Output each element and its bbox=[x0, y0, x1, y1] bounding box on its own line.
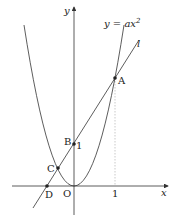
curve-label: y = ax2 bbox=[103, 17, 141, 29]
x-tick-one: 1 bbox=[112, 188, 118, 199]
x-axis-label: x bbox=[161, 187, 167, 198]
y-tick-one: 1 bbox=[76, 140, 82, 151]
label-B: B bbox=[64, 136, 71, 147]
graph: y x O 1 1 A B C D l y = ax2 bbox=[0, 0, 177, 224]
line-l bbox=[33, 40, 139, 208]
label-A: A bbox=[117, 75, 126, 86]
point-C bbox=[56, 166, 60, 170]
point-D bbox=[45, 184, 49, 188]
point-A bbox=[113, 76, 117, 80]
label-C: C bbox=[47, 163, 55, 174]
line-l-label: l bbox=[137, 38, 140, 49]
label-D: D bbox=[45, 189, 53, 200]
origin-label: O bbox=[63, 188, 71, 199]
y-axis-label: y bbox=[63, 5, 70, 16]
